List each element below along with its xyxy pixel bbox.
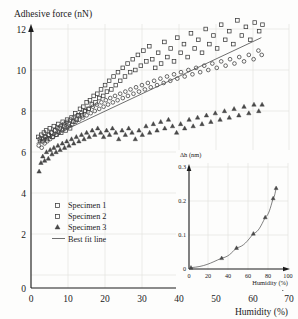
x-tick-20: 20 bbox=[100, 294, 110, 304]
y-tick-0: 0 bbox=[21, 284, 26, 294]
legend-label-specimen-2: Specimen 2 bbox=[68, 212, 106, 221]
inset-x-tick-40: 40 bbox=[225, 272, 231, 279]
legend-label-specimen-1: Specimen 1 bbox=[68, 201, 106, 210]
chart-title: Adhesive force (nN) bbox=[14, 9, 92, 20]
inset-y-tick-02: 0.2 bbox=[178, 197, 186, 204]
main-x-axis-label: Humidity (%) bbox=[235, 307, 288, 318]
y-tick-10: 10 bbox=[17, 66, 27, 76]
inset-x-axis-label: Humidity (%) bbox=[252, 279, 288, 287]
inset-y-axis-label: Δh (nm) bbox=[180, 151, 201, 159]
x-tick-30: 30 bbox=[137, 294, 147, 304]
y-tick-8: 8 bbox=[21, 107, 26, 117]
inset-x-tick-80: 80 bbox=[265, 272, 271, 279]
figure-container: 12 10 8 6 4 2 0 0 10 20 30 40 50 60 70 A… bbox=[0, 0, 298, 319]
inset-y-tick-01: 0.1 bbox=[178, 231, 186, 238]
inset-x-tick-100: 100 bbox=[283, 272, 292, 279]
legend-label-best-fit: Best fit line bbox=[68, 235, 107, 244]
x-tick-10: 10 bbox=[63, 294, 73, 304]
y-tick-4: 4 bbox=[21, 189, 26, 199]
inset-x-tick-60: 60 bbox=[245, 272, 251, 279]
inset-y-tick-03: 0.3 bbox=[178, 163, 186, 170]
y-tick-6: 6 bbox=[21, 148, 26, 158]
x-tick-70: 70 bbox=[284, 294, 294, 304]
x-tick-40: 40 bbox=[174, 294, 184, 304]
legend-label-specimen-3: Specimen 3 bbox=[68, 223, 106, 232]
inset-chart: Δh (nm) Humidity (%) 0.3 0.2 0.1 0 0 20 … bbox=[176, 150, 296, 290]
y-tick-12: 12 bbox=[17, 25, 27, 35]
inset-x-tick-0: 0 bbox=[187, 272, 190, 279]
chart-svg: 12 10 8 6 4 2 0 0 10 20 30 40 50 60 70 A… bbox=[0, 0, 298, 319]
y-tick-2: 2 bbox=[21, 230, 26, 240]
x-tick-60: 60 bbox=[248, 294, 258, 304]
x-tick-0: 0 bbox=[29, 294, 34, 304]
inset-x-tick-20: 20 bbox=[205, 272, 211, 279]
inset-y-tick-0: 0 bbox=[183, 265, 186, 272]
x-tick-50: 50 bbox=[211, 294, 221, 304]
